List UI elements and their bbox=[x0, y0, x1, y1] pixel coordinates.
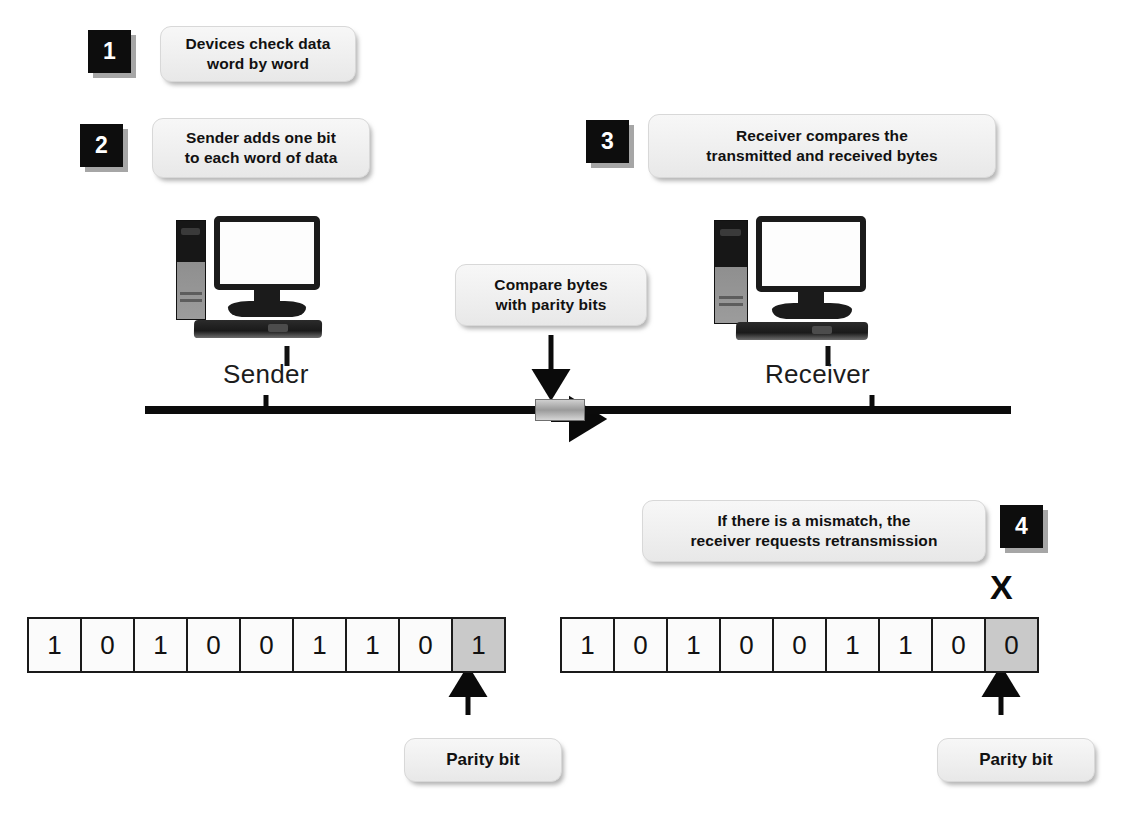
step-callout-1: Devices check data word by word bbox=[160, 26, 356, 82]
receiver-byte-row: 1 0 1 0 0 1 1 0 0 bbox=[560, 617, 1039, 673]
bit-cell: 0 bbox=[719, 617, 774, 673]
sender-label: Sender bbox=[223, 359, 309, 390]
step-callout-3: Receiver compares the transmitted and re… bbox=[648, 114, 996, 178]
parity-bit-label-left: Parity bit bbox=[404, 738, 562, 782]
sender-computer-icon bbox=[176, 216, 328, 350]
bit-cell: 1 bbox=[560, 617, 615, 673]
bit-cell: 1 bbox=[666, 617, 721, 673]
bit-cell: 1 bbox=[133, 617, 188, 673]
step-callout-2: Sender adds one bit to each word of data bbox=[152, 118, 370, 178]
bit-cell: 1 bbox=[292, 617, 347, 673]
bit-cell: 0 bbox=[186, 617, 241, 673]
bit-cell: 1 bbox=[27, 617, 82, 673]
step-badge-3: 3 bbox=[586, 120, 629, 163]
compare-line-2: with parity bits bbox=[494, 295, 607, 315]
diagram-canvas: 1 Devices check data word by word 2 Send… bbox=[0, 0, 1139, 813]
step-callout-4: If there is a mismatch, the receiver req… bbox=[642, 500, 986, 562]
mismatch-x-icon: X bbox=[990, 570, 1013, 604]
receiver-label: Receiver bbox=[765, 359, 870, 390]
bit-cell: 0 bbox=[80, 617, 135, 673]
bit-cell: 1 bbox=[878, 617, 933, 673]
bit-cell: 0 bbox=[398, 617, 453, 673]
step-3-line-2: transmitted and received bytes bbox=[706, 146, 937, 166]
step-1-line-1: Devices check data bbox=[186, 34, 331, 54]
parity-bit-label-right: Parity bit bbox=[937, 738, 1095, 782]
bit-cell: 1 bbox=[345, 617, 400, 673]
step-3-line-1: Receiver compares the bbox=[706, 126, 937, 146]
step-badge-4: 4 bbox=[1000, 505, 1043, 548]
step-2-line-2: to each word of data bbox=[185, 148, 338, 168]
parity-bit-cell: 1 bbox=[451, 617, 506, 673]
step-1-line-2: word by word bbox=[186, 54, 331, 74]
bit-cell: 0 bbox=[772, 617, 827, 673]
step-badge-2: 2 bbox=[80, 124, 123, 167]
data-packet-marker bbox=[535, 399, 585, 421]
parity-bit-cell: 0 bbox=[984, 617, 1039, 673]
bit-cell: 0 bbox=[613, 617, 668, 673]
bit-cell: 0 bbox=[931, 617, 986, 673]
step-badge-1: 1 bbox=[88, 30, 131, 73]
bit-cell: 1 bbox=[825, 617, 880, 673]
sender-byte-row: 1 0 1 0 0 1 1 0 1 bbox=[27, 617, 506, 673]
step-4-line-2: receiver requests retransmission bbox=[690, 531, 937, 551]
parity-bit-text: Parity bit bbox=[446, 749, 520, 771]
step-4-line-1: If there is a mismatch, the bbox=[690, 511, 937, 531]
compare-bytes-callout: Compare bytes with parity bits bbox=[455, 264, 647, 326]
receiver-computer-icon bbox=[714, 216, 870, 350]
parity-bit-text: Parity bit bbox=[979, 749, 1053, 771]
bit-cell: 0 bbox=[239, 617, 294, 673]
step-2-line-1: Sender adds one bit bbox=[185, 128, 338, 148]
compare-line-1: Compare bytes bbox=[494, 275, 607, 295]
